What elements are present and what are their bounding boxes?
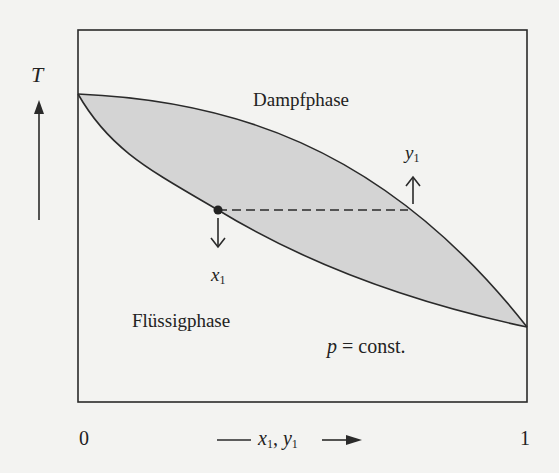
state-point — [214, 206, 223, 215]
x-axis-label: x1, y1 — [258, 428, 298, 450]
x1-label: x1 — [211, 265, 225, 286]
y-axis-label: T — [31, 64, 43, 86]
liquid-region-label: Flüssigphase — [132, 311, 230, 330]
x-max-label: 1 — [520, 428, 530, 448]
vapor-region-label: Dampfphase — [253, 90, 349, 109]
t-axis-arrow-icon — [34, 100, 44, 220]
y1-label: y1 — [405, 143, 419, 164]
x-min-label: 0 — [79, 428, 89, 448]
phase-diagram — [0, 0, 559, 473]
y1-arrow-icon — [406, 177, 420, 204]
x1-arrow-icon — [211, 218, 225, 247]
pressure-label: p = const. — [327, 336, 406, 356]
